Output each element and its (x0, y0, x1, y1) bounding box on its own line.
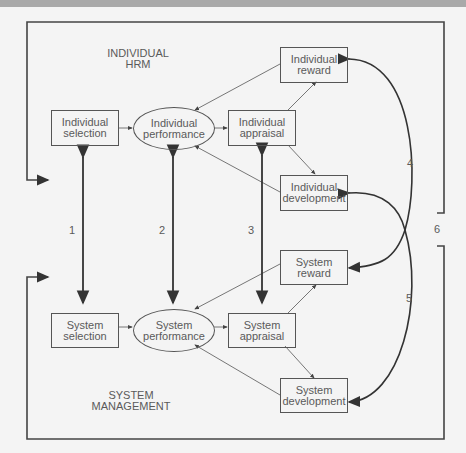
system-reward-node: Systemreward (280, 250, 348, 285)
region-label-system-management: SYSTEM MANAGEMENT (90, 390, 172, 412)
individual-development-node: Individualdevelopment (280, 175, 348, 211)
system-selection-node: Systemselection (51, 313, 119, 348)
region-label-line2: MANAGEMENT (90, 401, 172, 412)
link-number-3: 3 (248, 224, 254, 236)
link-number-1: 1 (69, 224, 75, 236)
system-appraisal-node: Systemappraisal (228, 313, 296, 348)
region-label-line2: HRM (98, 59, 178, 70)
link-number-6: 6 (434, 223, 440, 235)
system-performance-node: Systemperformance (133, 309, 215, 352)
individual-appraisal-node: Individualappraisal (228, 110, 296, 146)
individual-selection-node: Individualselection (51, 110, 119, 146)
individual-reward-node: Individualreward (280, 47, 348, 83)
link-number-2: 2 (159, 224, 165, 236)
link-number-5: 5 (406, 292, 412, 304)
individual-performance-node: Individualperformance (133, 107, 215, 150)
system-development-node: Systemdevelopment (280, 378, 348, 413)
link-number-4: 4 (407, 157, 413, 169)
region-label-individual-hrm: INDIVIDUAL HRM (98, 48, 178, 70)
